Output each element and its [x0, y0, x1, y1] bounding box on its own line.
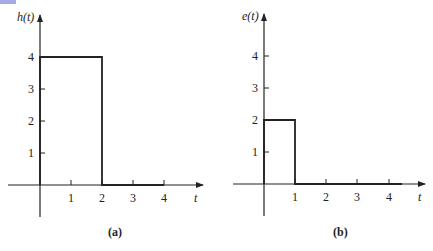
plot-a-y-tick-label: 4 — [28, 50, 34, 64]
plot-b-x-tick-label: 2 — [323, 190, 329, 204]
plot-b-ylabel: e(t) — [242, 9, 259, 23]
plot-a-x-tick-label: 2 — [99, 191, 105, 205]
plot-b-signal — [264, 120, 402, 184]
plot-b-x-tick-label: 1 — [292, 190, 298, 204]
plot-b-y-tick-label: 4 — [252, 49, 258, 63]
plot-b-y-tick-label: 1 — [252, 145, 258, 159]
plot-a-caption: (a) — [108, 225, 122, 239]
plot-b-x-tick-label: 3 — [354, 190, 360, 204]
plot-a-xlabel: t — [194, 191, 198, 205]
plot-b: e(t) t 4 3 2 1 1 2 3 4 (b) — [233, 9, 425, 239]
plot-b-x-tick-label: 4 — [386, 190, 392, 204]
plot-a-y-tick-label: 1 — [28, 146, 34, 160]
plot-a-y-tick-label: 3 — [28, 82, 34, 96]
plot-a-y-tick-label: 2 — [28, 114, 34, 128]
plot-a-x-tick-label: 4 — [161, 191, 167, 205]
plot-a-ylabel: h(t) — [17, 10, 34, 24]
plot-b-caption: (b) — [333, 225, 348, 239]
plot-a-x-tick-label: 1 — [68, 191, 74, 205]
plot-a: h(t) t 4 3 2 1 1 2 3 4 (a) — [8, 10, 203, 239]
plot-b-y-tick-label: 3 — [252, 81, 258, 95]
figure: h(t) t 4 3 2 1 1 2 3 4 (a) — [0, 0, 433, 251]
plot-b-y-tick-label: 2 — [252, 113, 258, 127]
plot-a-signal — [40, 57, 164, 185]
plot-b-xlabel: t — [418, 190, 422, 204]
plot-a-x-tick-label: 3 — [130, 191, 136, 205]
